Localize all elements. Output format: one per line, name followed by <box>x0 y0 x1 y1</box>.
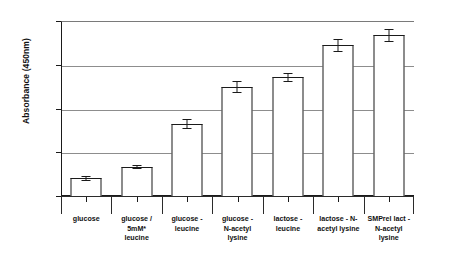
x-label-line: lactose - <box>263 215 313 225</box>
x-category-cell <box>162 196 212 214</box>
x-category-cell <box>263 196 313 214</box>
x-category-cell <box>313 196 363 214</box>
x-category-label: glucose <box>61 215 111 225</box>
bar[interactable] <box>373 35 404 196</box>
x-category-cell <box>364 196 414 214</box>
error-bar-cap-bottom <box>334 51 343 52</box>
x-label-line: glucose / <box>111 215 161 225</box>
bar[interactable] <box>121 167 152 196</box>
x-axis-labels: glucoseglucose /5mM*leucineglucose -leuc… <box>61 215 414 262</box>
error-bar <box>338 39 339 51</box>
error-bar-cap-bottom <box>132 168 141 169</box>
bar-group[interactable] <box>61 21 111 196</box>
x-category-label: glucose -leucine <box>162 215 212 234</box>
bar-chart: Absorbance (450nm) 0.400.300.200.100.00 … <box>0 0 455 262</box>
x-label-line: leucine <box>162 225 212 235</box>
x-category-label: lactose - N-acetyl lysine <box>313 215 363 234</box>
x-label-line: lactose - N- <box>313 215 363 225</box>
error-bar-cap-top <box>82 176 91 177</box>
bar[interactable] <box>222 87 253 196</box>
bar-group[interactable] <box>111 21 161 196</box>
x-label-line: acetyl lysine <box>313 225 363 235</box>
x-label-line: leucine <box>111 234 161 244</box>
bar-group[interactable] <box>364 21 414 196</box>
error-bar <box>388 29 389 40</box>
x-label-line: lysine <box>364 234 414 244</box>
bars-layer <box>61 21 414 196</box>
x-label-line: glucose - <box>162 215 212 225</box>
x-label-line: 5mM* <box>111 225 161 235</box>
x-category-label: glucose /5mM*leucine <box>111 215 161 244</box>
bar-group[interactable] <box>313 21 363 196</box>
error-bar-cap-top <box>384 29 393 30</box>
error-bar-cap-bottom <box>233 92 242 93</box>
error-bar-cap-bottom <box>183 128 192 129</box>
bar-group[interactable] <box>263 21 313 196</box>
x-label-line: SMPrel lact - <box>364 215 414 225</box>
error-bar <box>187 119 188 128</box>
x-label-line: N-acetyl <box>212 225 262 235</box>
error-bar-cap-bottom <box>384 41 393 42</box>
x-label-line: leucine <box>263 225 313 235</box>
x-category-label: SMPrel lact -N-acetyllysine <box>364 215 414 244</box>
error-bar-cap-bottom <box>283 81 292 82</box>
x-category-cell <box>61 196 111 214</box>
x-category-cell <box>212 196 262 214</box>
x-label-line: N-acetyl <box>364 225 414 235</box>
x-category-label: glucose -N-acetyllysine <box>212 215 262 244</box>
error-bar-cap-bottom <box>82 180 91 181</box>
x-category-label: lactose -leucine <box>263 215 313 234</box>
error-bar-cap-top <box>183 119 192 120</box>
bar-group[interactable] <box>162 21 212 196</box>
bar-group[interactable] <box>212 21 262 196</box>
error-bar-cap-top <box>233 81 242 82</box>
error-bar <box>287 73 288 82</box>
error-bar-cap-top <box>283 73 292 74</box>
bar[interactable] <box>272 77 303 196</box>
error-bar-cap-top <box>132 165 141 166</box>
x-category-cell <box>111 196 161 214</box>
x-label-line: glucose - <box>212 215 262 225</box>
bar[interactable] <box>172 124 203 196</box>
bar[interactable] <box>323 45 354 196</box>
error-bar-cap-top <box>334 39 343 40</box>
y-axis-title: Absorbance (450nm) <box>21 11 31 151</box>
x-label-line: glucose <box>61 215 111 225</box>
x-label-line: lysine <box>212 234 262 244</box>
error-bar <box>237 81 238 92</box>
